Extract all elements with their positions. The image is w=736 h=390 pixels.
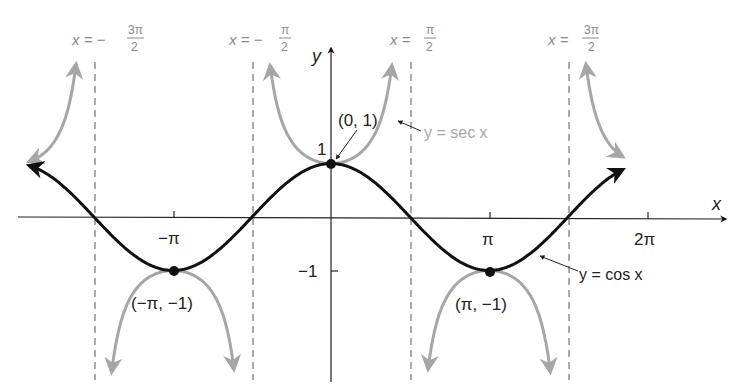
tick-label-2pi: 2π <box>634 230 655 249</box>
point-pi-neg1 <box>485 267 495 277</box>
asym1-num: 3π <box>128 23 143 37</box>
sec-branch-0 <box>29 64 76 161</box>
y-axis-label: y <box>310 46 322 66</box>
asymptote-label-2: x = − <box>228 31 263 48</box>
point-0-1-pointer <box>336 130 357 159</box>
point-neg-pi-neg1 <box>169 266 179 276</box>
tick-label-neg1: −1 <box>298 262 317 281</box>
point-label-pi: (π, −1) <box>455 295 507 314</box>
x-axis <box>18 217 726 219</box>
x-axis-label: x <box>711 194 722 214</box>
point-label-0-1: (0, 1) <box>338 111 378 130</box>
cos-label-pointer <box>540 256 578 271</box>
asym4-num: 3π <box>584 23 599 37</box>
point-label-neg-pi: (−π, −1) <box>131 294 193 313</box>
asym1-den: 2 <box>131 40 138 54</box>
sec-label-pointer <box>398 121 421 131</box>
sec-branch-3 <box>428 271 550 373</box>
asym4-den: 2 <box>588 40 595 54</box>
cos-sec-graph: x = − 3π 2 x = − π 2 x = π 2 x = 3π 2 x … <box>0 0 736 390</box>
asymptote-label-1: x = − <box>71 31 106 48</box>
sec-branch-1 <box>112 271 234 373</box>
sec-label: y = sec x <box>424 124 488 141</box>
tick-label-pi: π <box>482 230 494 249</box>
asymptotes <box>95 62 569 380</box>
asym2-den: 2 <box>281 40 288 54</box>
asymptote-label-4: x = <box>547 31 569 48</box>
point-0-1 <box>326 159 336 169</box>
sec-branch-4 <box>586 64 623 156</box>
asym3-den: 2 <box>426 40 433 54</box>
asym3-num: π <box>426 23 434 37</box>
asymptote-label-3: x = <box>389 31 411 48</box>
cos-label: y = cos x <box>579 266 643 283</box>
tick-label-neg-pi: −π <box>158 229 180 248</box>
tick-label-1: 1 <box>317 140 326 159</box>
asym2-num: π <box>281 23 289 37</box>
